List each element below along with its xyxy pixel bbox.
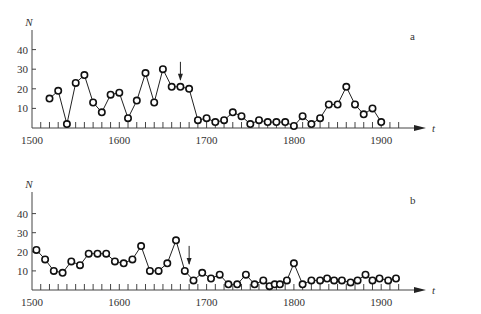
data-point-marker [376,275,382,281]
x-tick-label: 1600 [108,134,131,146]
data-point-marker [265,119,271,125]
data-point-marker [186,86,192,92]
data-point-marker [256,117,262,123]
panel-a: 1020304015001600170018001900Nta [17,16,436,146]
data-point-marker [221,117,227,123]
x-tick-label: 1800 [283,134,306,146]
x-tick-label: 1800 [283,296,306,308]
data-point-marker [347,279,353,285]
data-point-marker [334,101,340,107]
data-point-marker [164,260,170,266]
data-point-marker [308,121,314,127]
x-tick-label: 1900 [370,134,393,146]
data-point-marker [94,251,100,257]
data-point-marker [151,99,157,105]
y-tick-label: 10 [17,102,29,114]
data-point-marker [238,113,244,119]
data-point-marker [129,256,135,262]
data-point-marker [234,281,240,287]
data-point-marker [107,92,113,98]
data-point-marker [282,119,288,125]
data-point-marker [142,70,148,76]
x-axis-arrow-icon [414,287,426,293]
data-point-marker [42,256,48,262]
data-point-marker [90,99,96,105]
chart-canvas: 1020304015001600170018001900Nta 10203040… [0,0,481,314]
data-point-marker [273,119,279,125]
data-point-marker [147,268,153,274]
data-point-marker [173,237,179,243]
data-point-marker [138,243,144,249]
x-tick-label: 1500 [21,296,44,308]
y-tick-label: 30 [17,227,29,239]
data-point-marker [103,251,109,257]
data-point-marker [331,277,337,283]
panel-b: 1020304015001600170018001900Ntb [17,178,436,308]
data-point-marker [212,119,218,125]
data-point-marker [339,277,345,283]
y-tick-label: 20 [17,83,29,95]
data-point-marker [195,117,201,123]
data-point-marker [217,272,223,278]
data-point-marker [116,90,122,96]
y-tick-label: 20 [17,246,29,258]
data-point-marker [247,121,253,127]
series-line [50,69,382,126]
data-point-marker [352,101,358,107]
x-axis-arrow-icon [414,125,426,131]
data-point-marker [361,111,367,117]
data-point-marker [291,123,297,129]
data-point-marker [203,115,209,121]
panel-label: b [410,194,416,206]
y-axis-label: N [24,16,33,28]
data-point-marker [299,281,305,287]
data-point-marker [243,272,249,278]
x-tick-label: 1700 [196,134,219,146]
y-axis-label: N [24,178,33,190]
data-point-marker [51,268,57,274]
data-point-marker [299,113,305,119]
data-point-marker [125,115,131,121]
annotation-arrowhead-icon [178,74,183,81]
data-point-marker [343,84,349,90]
x-tick-label: 1900 [370,296,393,308]
data-point-marker [86,251,92,257]
data-point-marker [121,260,127,266]
data-point-marker [155,268,161,274]
x-tick-label: 1500 [21,134,44,146]
data-point-marker [169,84,175,90]
data-point-marker [378,119,384,125]
data-point-marker [208,275,214,281]
x-axis-label: t [432,284,436,296]
data-point-marker [260,277,266,283]
data-point-marker [99,109,105,115]
data-point-marker [77,262,83,268]
data-point-marker [182,268,188,274]
data-point-marker [134,97,140,103]
data-point-marker [324,275,330,281]
data-point-marker [199,270,205,276]
data-point-marker [393,275,399,281]
y-tick-label: 40 [17,208,29,220]
data-point-marker [68,258,74,264]
data-point-marker [326,101,332,107]
data-point-marker [64,121,70,127]
data-point-marker [73,80,79,86]
data-point-marker [317,277,323,283]
annotation-arrowhead-icon [187,258,192,265]
data-point-marker [59,270,65,276]
data-point-marker [160,66,166,72]
data-point-marker [177,84,183,90]
data-point-marker [225,281,231,287]
data-point-marker [291,260,297,266]
x-tick-label: 1600 [108,296,131,308]
data-point-marker [190,277,196,283]
data-point-marker [369,105,375,111]
data-point-marker [230,109,236,115]
panel-label: a [410,30,415,42]
data-point-marker [277,281,283,287]
data-point-marker [81,72,87,78]
data-point-marker [362,272,368,278]
data-point-marker [317,115,323,121]
data-point-marker [385,277,391,283]
